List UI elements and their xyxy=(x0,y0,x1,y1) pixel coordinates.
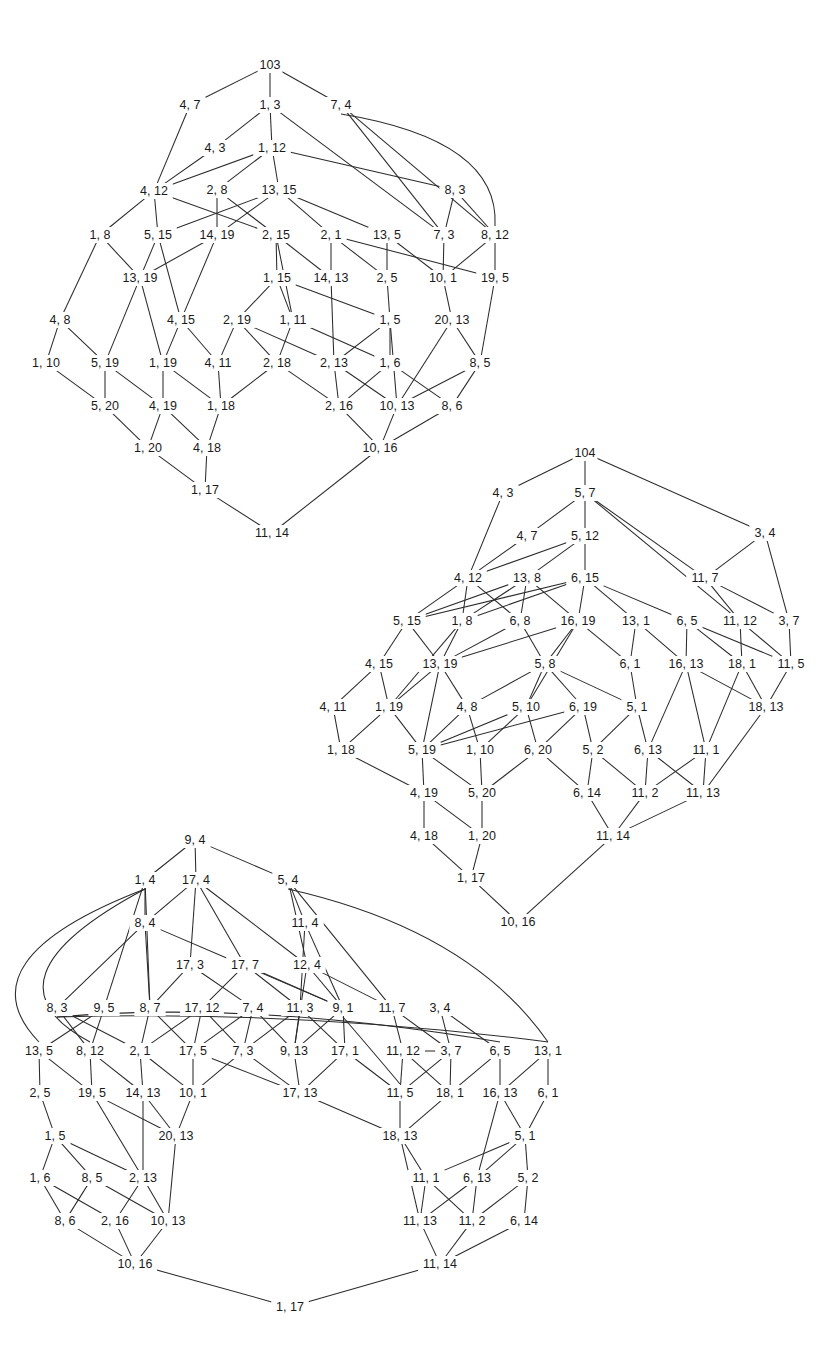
graph-edge xyxy=(104,1099,163,1129)
graph-node-label: 2, 19 xyxy=(223,313,251,327)
graph-edge xyxy=(585,715,591,742)
graph-edge xyxy=(157,972,183,1000)
graph-edge xyxy=(402,328,447,398)
graph-node-label: 1, 17 xyxy=(276,1300,304,1314)
graph-edge xyxy=(314,1099,386,1130)
graph-edge xyxy=(631,672,635,699)
graph-node-label: 8, 4 xyxy=(135,916,156,930)
graph-edge xyxy=(526,1144,528,1170)
graph-edge xyxy=(291,283,377,315)
graph-node-label: 18, 1 xyxy=(728,657,756,671)
graph-node-label: 2, 13 xyxy=(129,1171,157,1185)
graph-edge xyxy=(215,497,261,526)
graph-node-label: 3, 7 xyxy=(441,1044,462,1058)
graph-node-label: 1, 4 xyxy=(135,873,156,887)
graph-node-label: 6, 13 xyxy=(634,743,662,757)
graph-edge xyxy=(789,629,790,656)
graph-edge xyxy=(594,499,695,571)
graph-edge xyxy=(287,370,329,399)
graph-edge xyxy=(48,1058,83,1086)
graph-node-label: 11, 5 xyxy=(387,1086,414,1100)
graph-edge xyxy=(631,629,635,656)
graph-edge xyxy=(179,1101,190,1128)
graph-node-label: 11, 2 xyxy=(632,786,659,800)
graph-node-label: 10, 1 xyxy=(179,1086,207,1100)
graph-node-label: 4, 19 xyxy=(149,399,177,413)
graph-node-label: 5, 20 xyxy=(91,399,119,413)
graph-edge xyxy=(354,1058,391,1086)
graph-node-label: 13, 1 xyxy=(622,614,650,628)
graph-node-label: 20, 13 xyxy=(159,1129,194,1143)
graph-node-label: 2, 5 xyxy=(30,1086,51,1100)
graph-edge xyxy=(171,413,200,440)
graph-edge xyxy=(347,370,381,399)
graph-edge xyxy=(319,971,380,1002)
graph-node-label: 10, 1 xyxy=(429,271,457,285)
graph-edge xyxy=(230,370,268,399)
graph-node-label: 6, 13 xyxy=(463,1171,491,1185)
graph-edge xyxy=(473,844,480,870)
graph-edge xyxy=(481,1185,519,1214)
graph-edge xyxy=(432,757,473,786)
graph-node-label: 7, 3 xyxy=(434,228,455,242)
graph-edge xyxy=(688,672,704,742)
graph-node-label: 14, 13 xyxy=(314,271,349,285)
graph-edge xyxy=(221,328,233,355)
graph-node-label: 9, 1 xyxy=(333,1001,354,1015)
graph-edge xyxy=(258,971,331,1003)
graph-edge xyxy=(399,369,442,399)
graph-edge xyxy=(99,1058,134,1086)
graph-edge xyxy=(529,1101,544,1129)
graph-edge xyxy=(551,629,572,657)
graph-edge xyxy=(295,1059,299,1085)
figure-canvas: 1034, 71, 37, 44, 31, 124, 122, 813, 158… xyxy=(0,0,831,1347)
graph-edge xyxy=(210,972,238,1000)
graph-node-label: 11, 13 xyxy=(686,786,720,800)
graph-edge xyxy=(395,715,416,743)
graph-node-label: 1, 19 xyxy=(375,700,403,714)
graph-edge xyxy=(107,242,133,270)
graph-node-label: 1, 20 xyxy=(468,829,496,843)
graph-edge xyxy=(347,112,438,227)
graph-edge xyxy=(771,672,787,699)
graph-node-label: 6, 8 xyxy=(510,614,531,628)
graph-node-label: 4, 12 xyxy=(454,571,482,585)
graph-edge xyxy=(141,1059,143,1085)
edges-layer xyxy=(15,70,790,1303)
graph-edge xyxy=(409,1100,442,1128)
graph-edge xyxy=(306,1269,423,1303)
graph-node-label: 11, 14 xyxy=(423,1257,457,1271)
graph-edge xyxy=(491,757,529,786)
lattice-diagram-svg: 1034, 71, 37, 44, 31, 124, 122, 813, 158… xyxy=(0,0,831,1347)
graph-edge xyxy=(537,543,576,571)
graph-edge xyxy=(341,671,371,699)
graph-edge xyxy=(224,112,262,142)
graph-edge xyxy=(172,196,264,230)
graph-edge xyxy=(93,1016,102,1043)
graph-node-label: 4, 8 xyxy=(50,313,71,327)
graph-edge xyxy=(343,1016,344,1043)
graph-node-label: 5, 19 xyxy=(91,356,119,370)
graph-node-label: 11, 7 xyxy=(379,1001,406,1015)
graph-node-label: 11, 7 xyxy=(692,571,719,585)
graph-node-label: 11, 14 xyxy=(255,526,289,540)
graph-edge xyxy=(43,1144,52,1170)
graph-edge xyxy=(401,1059,403,1085)
graph-edge xyxy=(704,758,706,785)
graph-node-label: 1, 10 xyxy=(32,356,60,370)
graph-edge xyxy=(593,585,627,614)
graph-node-label: 5, 12 xyxy=(571,529,599,543)
graph-edge xyxy=(90,1059,91,1085)
graph-edge xyxy=(157,113,186,183)
graph-node-label: 8, 6 xyxy=(442,399,463,413)
graph-edge xyxy=(529,672,541,699)
graph-edge xyxy=(601,757,636,786)
graph-node-label: 11, 4 xyxy=(292,916,319,930)
graph-edge xyxy=(195,848,196,872)
graph-node-label: 11, 2 xyxy=(459,1214,486,1228)
graph-edge xyxy=(142,286,161,355)
graph-edge xyxy=(353,756,412,787)
graph-node-label: 5, 10 xyxy=(512,700,540,714)
graph-node-label: 2, 16 xyxy=(101,1214,129,1228)
graph-node-label: 6, 14 xyxy=(573,786,601,800)
